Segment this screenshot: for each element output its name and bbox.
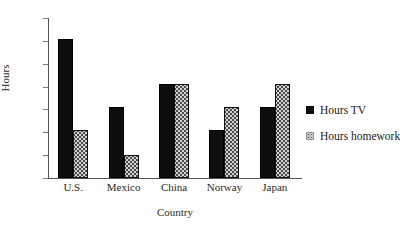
bar <box>58 39 73 178</box>
bar <box>260 107 275 178</box>
x-axis-title: Country <box>48 206 302 218</box>
x-axis-category-label: Japan <box>250 181 300 193</box>
x-axis-category-label: Norway <box>199 181 249 193</box>
bar <box>275 84 290 178</box>
x-axis-category-label: China <box>149 181 199 193</box>
bar-group-bars <box>98 18 148 178</box>
bar <box>109 107 124 178</box>
bar-group: Norway <box>199 18 249 178</box>
bar-group: Mexico <box>98 18 148 178</box>
y-axis-tick <box>43 178 48 179</box>
bar <box>159 84 174 178</box>
legend-item-hours-tv: Hours TV <box>306 104 394 116</box>
bar <box>73 130 88 178</box>
bar-group: China <box>149 18 199 178</box>
plot-bars: U.S.MexicoChinaNorwayJapan <box>48 18 300 178</box>
filled-square-icon <box>306 106 314 114</box>
x-axis-category-label: U.S. <box>48 181 98 193</box>
bar <box>224 107 239 178</box>
x-axis-category-label: Mexico <box>98 181 148 193</box>
bar-group-bars <box>48 18 98 178</box>
legend-label-hours-homework: Hours homework <box>320 130 400 142</box>
y-axis-title: Hours <box>0 51 11 78</box>
bar-group-bars <box>149 18 199 178</box>
bar <box>124 155 139 178</box>
bar-group: U.S. <box>48 18 98 178</box>
legend-label-hours-tv: Hours TV <box>320 104 366 116</box>
x-axis-line <box>48 178 302 179</box>
legend-item-hours-homework: Hours homework <box>306 130 394 142</box>
bar-group-bars <box>199 18 249 178</box>
chart-legend: Hours TV Hours homework <box>306 104 394 156</box>
dotted-square-icon <box>306 132 314 140</box>
bar-group-bars <box>250 18 300 178</box>
bar <box>209 130 224 178</box>
bar <box>174 84 189 178</box>
y-axis-title-text: Hours <box>0 65 11 92</box>
bar-group: Japan <box>250 18 300 178</box>
